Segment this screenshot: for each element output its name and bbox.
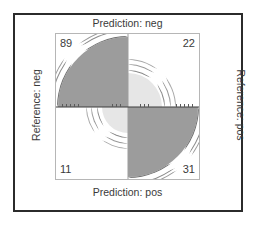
plot-area: Prediction: neg Prediction: pos Referenc… bbox=[0, 0, 258, 226]
axis-title-left: Reference: neg bbox=[30, 32, 42, 179]
fourfold-plot-figure: Prediction: neg Prediction: pos Referenc… bbox=[0, 0, 258, 226]
axis-title-top: Prediction: neg bbox=[55, 17, 200, 29]
plot-inner-box: 89 22 11 31 bbox=[55, 33, 200, 180]
axis-title-right: Reference: pos bbox=[235, 32, 247, 179]
cell-count-bottom-left: 11 bbox=[60, 164, 71, 175]
cell-count-top-right: 22 bbox=[183, 38, 195, 49]
axis-title-bottom: Prediction: pos bbox=[55, 186, 200, 198]
cell-count-bottom-right: 31 bbox=[183, 164, 195, 175]
cell-count-top-left: 89 bbox=[60, 38, 72, 49]
